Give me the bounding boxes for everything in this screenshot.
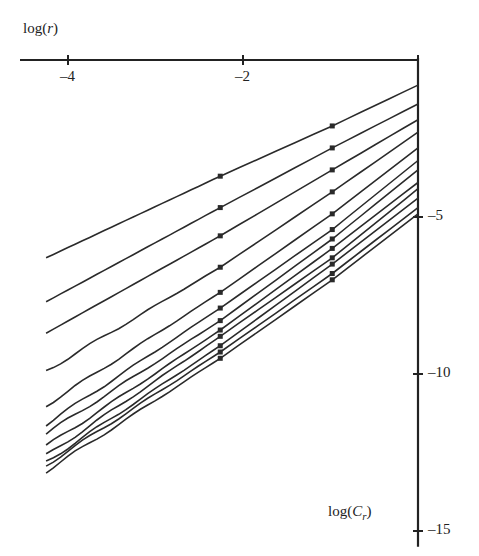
series-line-m6 [46, 161, 418, 427]
series-line-m8 [46, 183, 418, 446]
x-axis-title: log(r) [23, 20, 58, 37]
y-tick-label: –15 [428, 521, 451, 538]
y-tick-label: –10 [428, 364, 451, 381]
data-point-marker [218, 350, 223, 355]
data-point-marker [218, 233, 223, 238]
series-line-m10 [46, 198, 418, 461]
data-point-marker [330, 246, 335, 251]
data-point-marker [330, 255, 335, 260]
series-line-m2 [46, 104, 418, 302]
data-point-marker [330, 277, 335, 282]
data-point-marker [218, 290, 223, 295]
data-point-marker [330, 123, 335, 128]
series-line-m5 [46, 148, 418, 407]
data-point-marker [218, 318, 223, 323]
y-tick-label: –5 [428, 207, 443, 224]
data-point-marker [218, 306, 223, 311]
data-point-marker [330, 262, 335, 267]
series-line-m3 [46, 120, 418, 334]
x-tick-label: –4 [60, 68, 75, 85]
data-point-marker [330, 227, 335, 232]
data-point-marker [330, 145, 335, 150]
data-point-marker [330, 167, 335, 172]
data-point-marker [218, 334, 223, 339]
data-point-marker [218, 174, 223, 179]
data-point-marker [330, 189, 335, 194]
data-point-marker [218, 205, 223, 210]
data-point-marker [218, 343, 223, 348]
data-point-marker [330, 211, 335, 216]
data-point-marker [218, 265, 223, 270]
data-point-marker [330, 271, 335, 276]
data-point-marker [218, 328, 223, 333]
data-point-marker [330, 236, 335, 241]
x-tick-label: –2 [235, 68, 250, 85]
y-axis-title: log(Cr) [328, 503, 371, 522]
data-point-marker [218, 356, 223, 361]
